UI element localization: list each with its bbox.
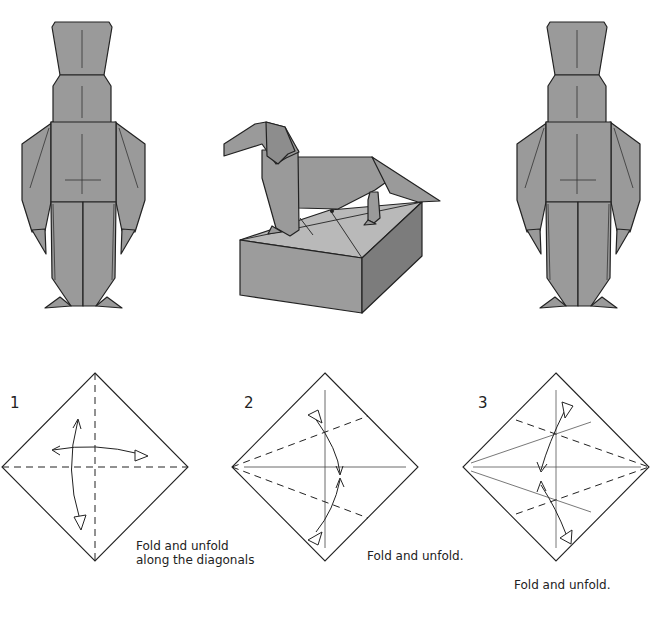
soldier-illustration-back xyxy=(513,18,645,318)
step-2-diagram xyxy=(230,370,420,570)
step-2-caption: Fold and unfold. xyxy=(367,549,464,563)
caption-line: Fold and unfold. xyxy=(367,549,464,563)
caption-line: Fold and unfold. xyxy=(514,578,611,592)
square-fold-edges-to-center-diagram xyxy=(230,370,420,570)
soldier-figure-left xyxy=(18,18,150,318)
soldier-illustration xyxy=(18,18,150,318)
soldier-figure-right xyxy=(513,18,645,318)
dog-on-box-figure xyxy=(200,100,460,330)
step-3-diagram xyxy=(461,370,655,570)
square-fold-edges-to-crease-diagram xyxy=(461,370,655,570)
dog-on-box-illustration xyxy=(200,100,460,330)
step-3-caption: Fold and unfold. xyxy=(514,578,611,592)
